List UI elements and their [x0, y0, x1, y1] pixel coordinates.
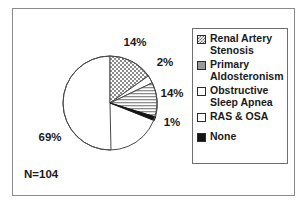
legend-item-label: Obstructive Sleep Apnea — [210, 85, 285, 108]
black-swatch-icon — [197, 133, 206, 142]
white-swatch-icon — [197, 113, 206, 122]
sample-size-label: N=104 — [24, 168, 58, 180]
data-label-none: 69% — [38, 131, 61, 143]
legend-item-label: Renal Artery Stenosis — [210, 33, 285, 56]
figure-canvas: 14% 2% 14% 1% 69% N=104 Renal Artery Ste… — [0, 0, 308, 207]
pie-slice-none — [63, 56, 111, 150]
legend-item-label: None — [210, 131, 236, 143]
legend-item-label: Primary Aldosteronism — [210, 59, 285, 82]
legend-item-none: None — [197, 131, 285, 143]
checker-swatch-icon — [197, 35, 206, 44]
legend-item-renal-artery-stenosis: Renal Artery Stenosis — [197, 33, 285, 56]
data-label-primary-aldosteronism: 14% — [160, 87, 183, 99]
legend-item-primary-aldosteronism: Primary Aldosteronism — [197, 59, 285, 82]
data-label-renal-artery-stenosis: 14% — [123, 36, 146, 48]
white-swatch-icon — [197, 87, 206, 96]
legend-item-label: RAS & OSA — [210, 111, 268, 123]
solid-gray-swatch-icon — [197, 61, 206, 70]
legend-item-ras-and-osa: RAS & OSA — [197, 111, 285, 123]
legend-item-obstructive-sleep-apnea: Obstructive Sleep Apnea — [197, 85, 285, 108]
legend: Renal Artery Stenosis Primary Aldosteron… — [192, 28, 288, 164]
data-label-obstructive-sleep-apnea: 2% — [157, 56, 174, 68]
data-label-ras-and-osa: 1% — [164, 116, 181, 128]
